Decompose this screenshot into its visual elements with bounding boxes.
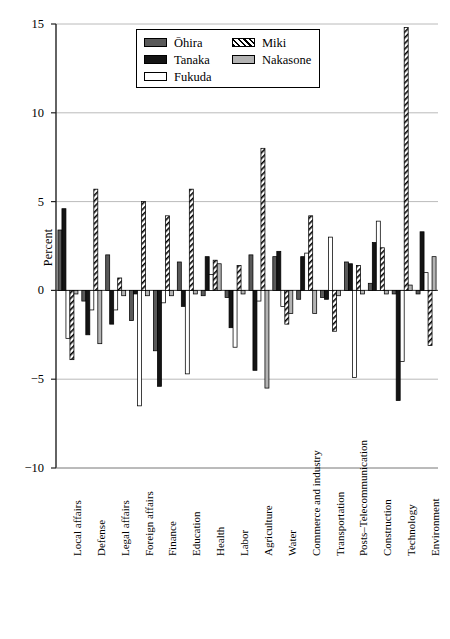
x-axis-label-construction: Construction	[382, 499, 393, 556]
bar	[185, 290, 189, 373]
bar	[169, 290, 173, 295]
legend-item-hira: Ōhira	[144, 34, 212, 51]
legend-label: Nakasone	[262, 54, 311, 66]
bar	[82, 290, 86, 301]
bar	[110, 290, 114, 324]
bar	[333, 290, 337, 331]
x-axis-label-local-affairs: Local affairs	[72, 500, 83, 556]
bar	[289, 290, 293, 313]
x-axis-label-environment: Environment	[430, 499, 441, 556]
bar	[368, 283, 372, 290]
x-axis-label-legal-affairs: Legal affairs	[120, 500, 131, 556]
x-axis-label-finance: Finance	[167, 521, 178, 556]
bar	[416, 290, 420, 294]
bar	[384, 290, 388, 294]
bar	[177, 262, 181, 290]
x-axis-label-posts-telecommunication: Posts–Telecommunication	[358, 440, 369, 556]
bar	[297, 290, 301, 299]
bar	[420, 232, 424, 291]
bar	[261, 148, 265, 290]
x-axis-label-commerce-and-industry: Commerce and industry	[311, 450, 322, 556]
bar	[229, 290, 233, 327]
bar	[329, 237, 333, 290]
bar	[181, 290, 185, 306]
legend-label: Ōhira	[174, 37, 202, 49]
bar	[146, 290, 150, 295]
legend-item-fukuda: Fukuda	[144, 68, 212, 85]
bar	[348, 264, 352, 291]
bar-chart: Percent −10−5051015 ŌhiraTanakaFukuda Mi…	[0, 0, 450, 639]
bar	[205, 257, 209, 291]
x-axis-label-transportation: Transportation	[335, 492, 346, 556]
bar	[74, 290, 78, 294]
bar	[309, 216, 313, 291]
bar	[396, 290, 400, 400]
bar	[225, 290, 229, 297]
x-axis-label-health: Health	[215, 527, 226, 556]
bar	[130, 290, 134, 320]
x-axis-label-defense: Defense	[96, 520, 107, 556]
bar	[360, 290, 364, 294]
x-axis-label-foreign-affairs: Foreign affairs	[144, 491, 155, 556]
bar	[233, 290, 237, 347]
x-axis-label-labor: Labor	[239, 530, 250, 556]
bar	[273, 257, 277, 291]
bar	[281, 290, 285, 306]
legend-swatch-icon	[232, 55, 255, 64]
legend-item-tanaka: Tanaka	[144, 51, 212, 68]
bar	[408, 285, 412, 290]
bar	[285, 290, 289, 324]
bar	[90, 290, 94, 310]
bar	[376, 221, 380, 290]
bar	[301, 257, 305, 291]
bar	[189, 189, 193, 290]
x-axis-label-water: Water	[287, 530, 298, 556]
chart-legend: ŌhiraTanakaFukuda MikiNakasone	[136, 29, 320, 88]
bar	[118, 278, 122, 290]
bar	[321, 290, 325, 297]
legend-column-right: MikiNakasone	[232, 34, 311, 68]
bar	[70, 290, 74, 359]
bar	[134, 290, 138, 294]
bar	[98, 290, 102, 343]
bar	[392, 290, 396, 294]
legend-swatch-icon	[232, 38, 255, 47]
legend-item-nakasone: Nakasone	[232, 51, 311, 68]
x-axis-label-technology: Technology	[406, 504, 417, 556]
bar	[249, 255, 253, 291]
bar	[253, 290, 257, 370]
legend-item-miki: Miki	[232, 34, 311, 51]
legend-swatch-icon	[144, 55, 167, 64]
legend-swatch-icon	[144, 38, 167, 47]
bar	[138, 290, 142, 405]
legend-label: Tanaka	[174, 54, 210, 66]
bar	[106, 255, 110, 291]
bar	[66, 290, 70, 338]
bar	[58, 230, 62, 290]
bar	[257, 290, 261, 301]
bar	[114, 290, 118, 310]
bar	[193, 290, 197, 294]
bar	[213, 260, 217, 290]
bar	[404, 28, 408, 291]
bar	[337, 290, 341, 295]
bar	[153, 290, 157, 350]
legend-swatch-icon	[144, 72, 167, 81]
legend-column-left: ŌhiraTanakaFukuda	[144, 34, 212, 85]
bar	[241, 290, 245, 294]
legend-label: Fukuda	[174, 71, 212, 83]
bar	[432, 257, 436, 291]
bar	[313, 290, 317, 313]
bar	[237, 266, 241, 291]
bar	[305, 253, 309, 290]
bar	[165, 216, 169, 291]
bar	[356, 266, 360, 291]
bar	[428, 290, 432, 345]
bar	[86, 290, 90, 334]
x-axis-label-education: Education	[191, 511, 202, 556]
bar	[265, 290, 269, 388]
bar	[344, 262, 348, 290]
bar	[209, 274, 213, 290]
bar	[277, 251, 281, 290]
bar	[94, 189, 98, 290]
